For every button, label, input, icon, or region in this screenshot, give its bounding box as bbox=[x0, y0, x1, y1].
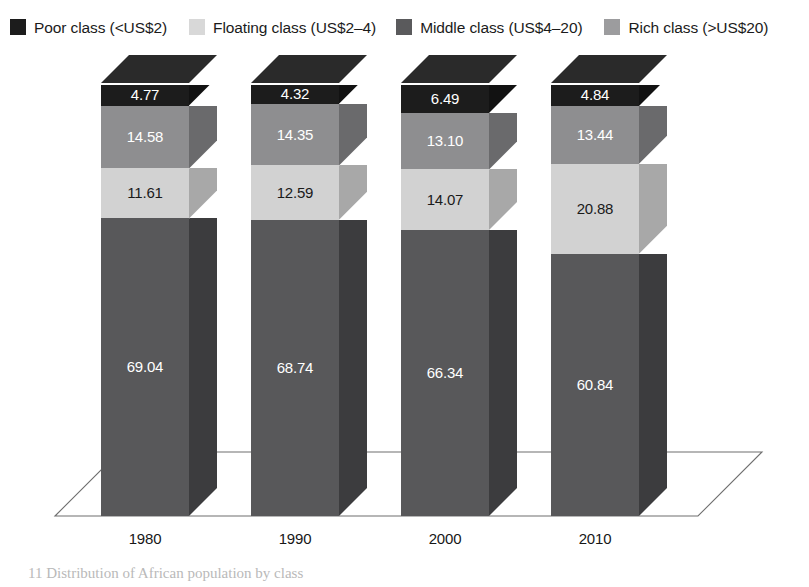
x-axis-label-1990: 1990 bbox=[226, 530, 364, 547]
bar-value-label-floating-2000: 14.07 bbox=[427, 192, 464, 208]
x-axis-label-2000: 2000 bbox=[376, 530, 514, 547]
bar-value-label-middle-2010: 13.44 bbox=[577, 127, 614, 143]
x-axis-label-1980: 1980 bbox=[76, 530, 214, 547]
chart-plot-area: 69.0411.6114.584.7768.7412.5914.354.3266… bbox=[0, 48, 809, 540]
bar-value-label-middle-1990: 14.35 bbox=[277, 127, 314, 143]
bar-value-label-middle-1980: 14.58 bbox=[127, 129, 164, 145]
bar-value-label-rich-2010: 4.84 bbox=[581, 87, 609, 103]
figure-caption: 11 Distribution of African population by… bbox=[0, 563, 809, 587]
bar-value-label-rich-2000: 6.49 bbox=[431, 91, 459, 107]
legend-label-middle-class: Middle class (US$4–20) bbox=[420, 19, 582, 36]
chart-x-axis-labels: 1980199020002010 bbox=[0, 48, 809, 540]
bar-value-label-poor-2000: 66.34 bbox=[427, 365, 464, 381]
legend-item-rich-class[interactable]: Rich class (>US$20) bbox=[604, 12, 768, 42]
legend-swatch-poor-icon bbox=[10, 19, 26, 35]
legend-label-rich-class: Rich class (>US$20) bbox=[628, 19, 768, 36]
bar-value-label-rich-1990: 4.32 bbox=[281, 86, 309, 102]
bar-value-label-poor-2010: 60.84 bbox=[577, 377, 614, 393]
bar-value-label-middle-2000: 13.10 bbox=[427, 133, 464, 149]
legend-item-floating-class[interactable]: Floating class (US$2–4) bbox=[189, 12, 376, 42]
legend-label-floating-class: Floating class (US$2–4) bbox=[213, 19, 376, 36]
chart-legend: Poor class (<US$2) Floating class (US$2–… bbox=[8, 12, 801, 42]
bar-value-label-poor-1980: 69.04 bbox=[127, 359, 164, 375]
x-axis-label-2010: 2010 bbox=[526, 530, 664, 547]
legend-item-poor-class[interactable]: Poor class (<US$2) bbox=[10, 12, 167, 42]
bar-value-label-poor-1990: 68.74 bbox=[277, 360, 314, 376]
legend-item-middle-class[interactable]: Middle class (US$4–20) bbox=[396, 12, 582, 42]
legend-label-poor-class: Poor class (<US$2) bbox=[34, 19, 167, 36]
legend-swatch-floating-icon bbox=[189, 19, 205, 35]
bar-value-label-floating-1990: 12.59 bbox=[277, 185, 314, 201]
bar-value-label-floating-2010: 20.88 bbox=[577, 201, 614, 217]
chart-root: Poor class (<US$2) Floating class (US$2–… bbox=[0, 0, 809, 587]
legend-swatch-middle-icon bbox=[396, 19, 412, 35]
bar-value-label-floating-1980: 11.61 bbox=[127, 185, 162, 201]
legend-swatch-rich-icon bbox=[604, 19, 620, 35]
bar-value-label-rich-1980: 4.77 bbox=[131, 87, 159, 103]
